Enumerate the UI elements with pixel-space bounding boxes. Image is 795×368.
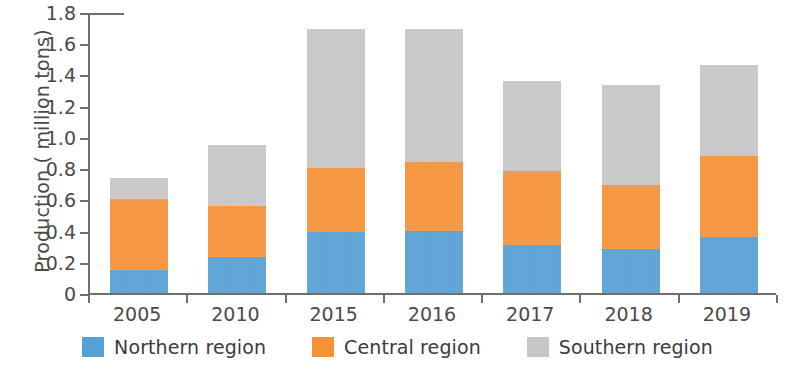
bar-segment-northern-region[interactable] bbox=[208, 257, 266, 293]
x-axis-tick-label: 2010 bbox=[186, 305, 284, 324]
bar-segment-southern-region[interactable] bbox=[307, 29, 365, 168]
x-axis-tick-label: 2005 bbox=[88, 305, 186, 324]
bar-segment-northern-region[interactable] bbox=[110, 270, 168, 293]
x-axis-tick bbox=[579, 295, 581, 303]
x-axis-tick bbox=[186, 295, 188, 303]
y-axis-tick-label: 0.6 bbox=[46, 191, 76, 210]
y-axis-tick-label: 1.6 bbox=[46, 35, 76, 54]
x-axis-tick-label: 2015 bbox=[285, 305, 383, 324]
y-axis-tick-label: 1.8 bbox=[46, 4, 76, 23]
y-axis-tick bbox=[80, 294, 88, 296]
x-axis-tick-label: 2016 bbox=[383, 305, 481, 324]
y-axis-tick-label: 0.2 bbox=[46, 254, 76, 273]
x-axis-tick-label: 2017 bbox=[481, 305, 579, 324]
bar-segment-northern-region[interactable] bbox=[503, 245, 561, 293]
x-axis-tick bbox=[678, 295, 680, 303]
y-axis-tick-label: 0.4 bbox=[46, 223, 76, 242]
y-axis-tick bbox=[80, 75, 88, 77]
x-axis-tick bbox=[88, 295, 90, 303]
legend-item-central-region[interactable]: Central region bbox=[312, 336, 481, 358]
y-axis-tick bbox=[80, 200, 88, 202]
x-axis-tick bbox=[285, 295, 287, 303]
legend-swatch-icon bbox=[82, 337, 104, 357]
plot-area bbox=[88, 14, 776, 295]
x-axis-tick-label: 2018 bbox=[579, 305, 677, 324]
bar-stack[interactable] bbox=[307, 12, 365, 293]
bar-segment-southern-region[interactable] bbox=[503, 81, 561, 172]
legend-swatch-icon bbox=[527, 337, 549, 357]
chart-legend: Northern regionCentral regionSouthern re… bbox=[0, 336, 795, 358]
bar-segment-northern-region[interactable] bbox=[307, 232, 365, 293]
y-axis-tick bbox=[80, 107, 88, 109]
y-axis-tick-label: 1.0 bbox=[46, 129, 76, 148]
x-axis-tick bbox=[383, 295, 385, 303]
bar-segment-southern-region[interactable] bbox=[405, 29, 463, 162]
bar-stack[interactable] bbox=[110, 12, 168, 293]
legend-item-southern-region[interactable]: Southern region bbox=[527, 336, 713, 358]
bar-segment-southern-region[interactable] bbox=[602, 85, 660, 185]
bar-segment-northern-region[interactable] bbox=[405, 231, 463, 293]
y-axis-tick bbox=[80, 13, 88, 15]
x-axis-tick bbox=[776, 295, 778, 303]
bar-stack[interactable] bbox=[405, 12, 463, 293]
legend-label: Southern region bbox=[559, 336, 713, 358]
bar-segment-southern-region[interactable] bbox=[208, 145, 266, 206]
bar-segment-central-region[interactable] bbox=[503, 171, 561, 244]
bar-stack[interactable] bbox=[208, 12, 266, 293]
y-axis-tick-label: 0.8 bbox=[46, 160, 76, 179]
bar-segment-northern-region[interactable] bbox=[602, 249, 660, 293]
bar-segment-central-region[interactable] bbox=[307, 168, 365, 232]
bar-segment-southern-region[interactable] bbox=[110, 178, 168, 200]
x-axis-tick-label: 2019 bbox=[678, 305, 776, 324]
y-axis-tick-label: 0 bbox=[64, 285, 76, 304]
bar-segment-central-region[interactable] bbox=[208, 206, 266, 258]
y-axis-tick bbox=[80, 44, 88, 46]
y-axis-tick bbox=[80, 169, 88, 171]
y-axis-tick-label: 1.4 bbox=[46, 66, 76, 85]
bar-segment-northern-region[interactable] bbox=[700, 237, 758, 293]
legend-label: Central region bbox=[344, 336, 481, 358]
legend-label: Northern region bbox=[114, 336, 266, 358]
legend-item-northern-region[interactable]: Northern region bbox=[82, 336, 266, 358]
bar-segment-southern-region[interactable] bbox=[700, 65, 758, 156]
y-axis-tick-label: 1.2 bbox=[46, 98, 76, 117]
bar-stack[interactable] bbox=[602, 12, 660, 293]
y-axis-tick bbox=[80, 138, 88, 140]
bar-segment-central-region[interactable] bbox=[602, 185, 660, 249]
bar-stack[interactable] bbox=[503, 12, 561, 293]
x-axis-tick bbox=[481, 295, 483, 303]
bar-stack[interactable] bbox=[700, 12, 758, 293]
y-axis-tick bbox=[80, 263, 88, 265]
legend-swatch-icon bbox=[312, 337, 334, 357]
bar-segment-central-region[interactable] bbox=[700, 156, 758, 237]
stacked-bar-chart: Production ( million tons) 00.20.40.60.8… bbox=[0, 0, 795, 368]
bar-segment-central-region[interactable] bbox=[110, 199, 168, 269]
bar-segment-central-region[interactable] bbox=[405, 162, 463, 231]
y-axis-tick bbox=[80, 232, 88, 234]
